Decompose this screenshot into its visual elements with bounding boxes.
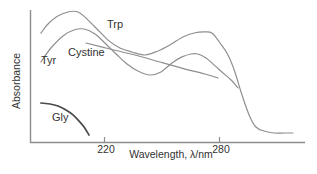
cystine-label: Cystine: [68, 46, 105, 58]
gly-label: Gly: [52, 111, 69, 123]
absorbance-spectra-figure: 220 280 Wavelength, λ/nm Absorbance Trp …: [0, 0, 317, 174]
trp-label: Trp: [107, 18, 123, 30]
y-axis-title: Absorbance: [10, 53, 22, 109]
x-tick-label: 280: [212, 143, 230, 155]
cystine-curve: [86, 43, 218, 78]
tyr-label: Tyr: [41, 54, 57, 66]
x-tick-label: 220: [97, 143, 115, 155]
spectra-chart: 220 280 Wavelength, λ/nm Absorbance Trp …: [0, 0, 317, 174]
tyr-curve: [41, 29, 238, 88]
x-tick-220: 220: [97, 137, 115, 155]
x-tick-280: 280: [212, 137, 230, 155]
x-axis-title: Wavelength, λ/nm: [129, 148, 213, 160]
